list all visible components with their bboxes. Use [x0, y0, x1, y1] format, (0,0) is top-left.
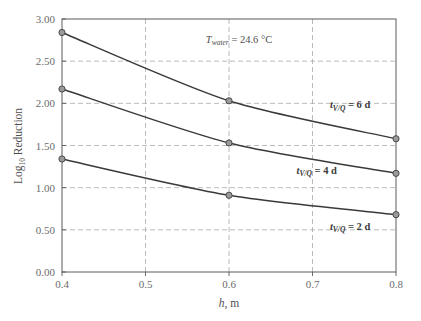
- x-tick-label: 0.6: [222, 278, 236, 290]
- y-tick-label: 0.00: [36, 266, 56, 278]
- line-chart: 0.40.50.60.70.8 0.000.501.001.502.002.50…: [0, 0, 421, 321]
- y-tick-label: 2.00: [36, 97, 56, 109]
- x-tick-label: 0.8: [389, 278, 403, 290]
- y-axis-title-base: Log: [12, 165, 25, 184]
- curve-label-rest: = 6 d: [345, 99, 370, 110]
- y-axis-title-rest: Reduction: [12, 108, 24, 158]
- x-axis-title: h, m: [219, 297, 240, 310]
- curve-label-rest: = 2 d: [345, 221, 370, 232]
- data-point-marker: [226, 98, 232, 104]
- data-point-marker: [393, 136, 399, 142]
- annotation-subscript: water: [212, 38, 229, 47]
- curve-label-rest: = 4 d: [312, 165, 337, 176]
- x-tick-label: 0.5: [139, 278, 153, 290]
- data-point-marker: [59, 29, 65, 35]
- curve-label-subscript: V/Q: [333, 104, 346, 113]
- y-tick-label: 2.50: [36, 55, 56, 67]
- data-point-marker: [226, 192, 232, 198]
- curve-label-subscript: V/Q: [299, 169, 312, 178]
- data-point-marker: [393, 212, 399, 218]
- data-point-marker: [393, 170, 399, 176]
- x-tick-label: 0.4: [55, 278, 69, 290]
- y-tick-label: 3.00: [36, 13, 56, 25]
- y-tick-label: 1.00: [36, 182, 56, 194]
- y-tick-label: 1.50: [36, 140, 56, 152]
- data-point-marker: [59, 86, 65, 92]
- data-point-marker: [226, 140, 232, 146]
- x-tick-label: 0.7: [306, 278, 320, 290]
- x-axis-title-rest: , m: [225, 297, 240, 310]
- y-tick-label: 0.50: [36, 224, 56, 236]
- annotation-rest: = 24.6 °C: [229, 34, 272, 45]
- chart-figure: 0.40.50.60.70.8 0.000.501.001.502.002.50…: [0, 0, 421, 321]
- curve-label-subscript: V/Q: [333, 225, 346, 234]
- data-point-marker: [59, 156, 65, 162]
